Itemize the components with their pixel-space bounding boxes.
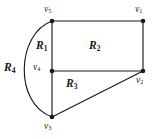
vertex-dot-v3	[50, 115, 55, 120]
vertex-dot-v1	[141, 19, 146, 24]
vertex-dot-v5	[50, 19, 55, 24]
vertex-dot-v4	[50, 69, 55, 74]
vertex-label-v1: v1	[135, 5, 142, 15]
vertex-label-v3: v3	[44, 122, 51, 132]
vertex-dot-group	[50, 19, 146, 120]
vertex-dot-v2	[141, 69, 146, 74]
edge-group	[24, 21, 143, 117]
region-label-r3: R3	[66, 78, 77, 90]
region-label-r2: R2	[89, 40, 100, 52]
vertex-label-v5: v5	[44, 5, 51, 15]
graph-figure: v5 v1 v4 v2 v3 R1 R2 R3 R4	[0, 0, 157, 139]
region-label-r4: R4	[4, 62, 15, 74]
vertex-label-v4: v4	[33, 63, 40, 73]
graph-canvas	[0, 0, 157, 139]
region-label-r1: R1	[36, 40, 47, 52]
vertex-label-v2: v2	[136, 76, 143, 86]
